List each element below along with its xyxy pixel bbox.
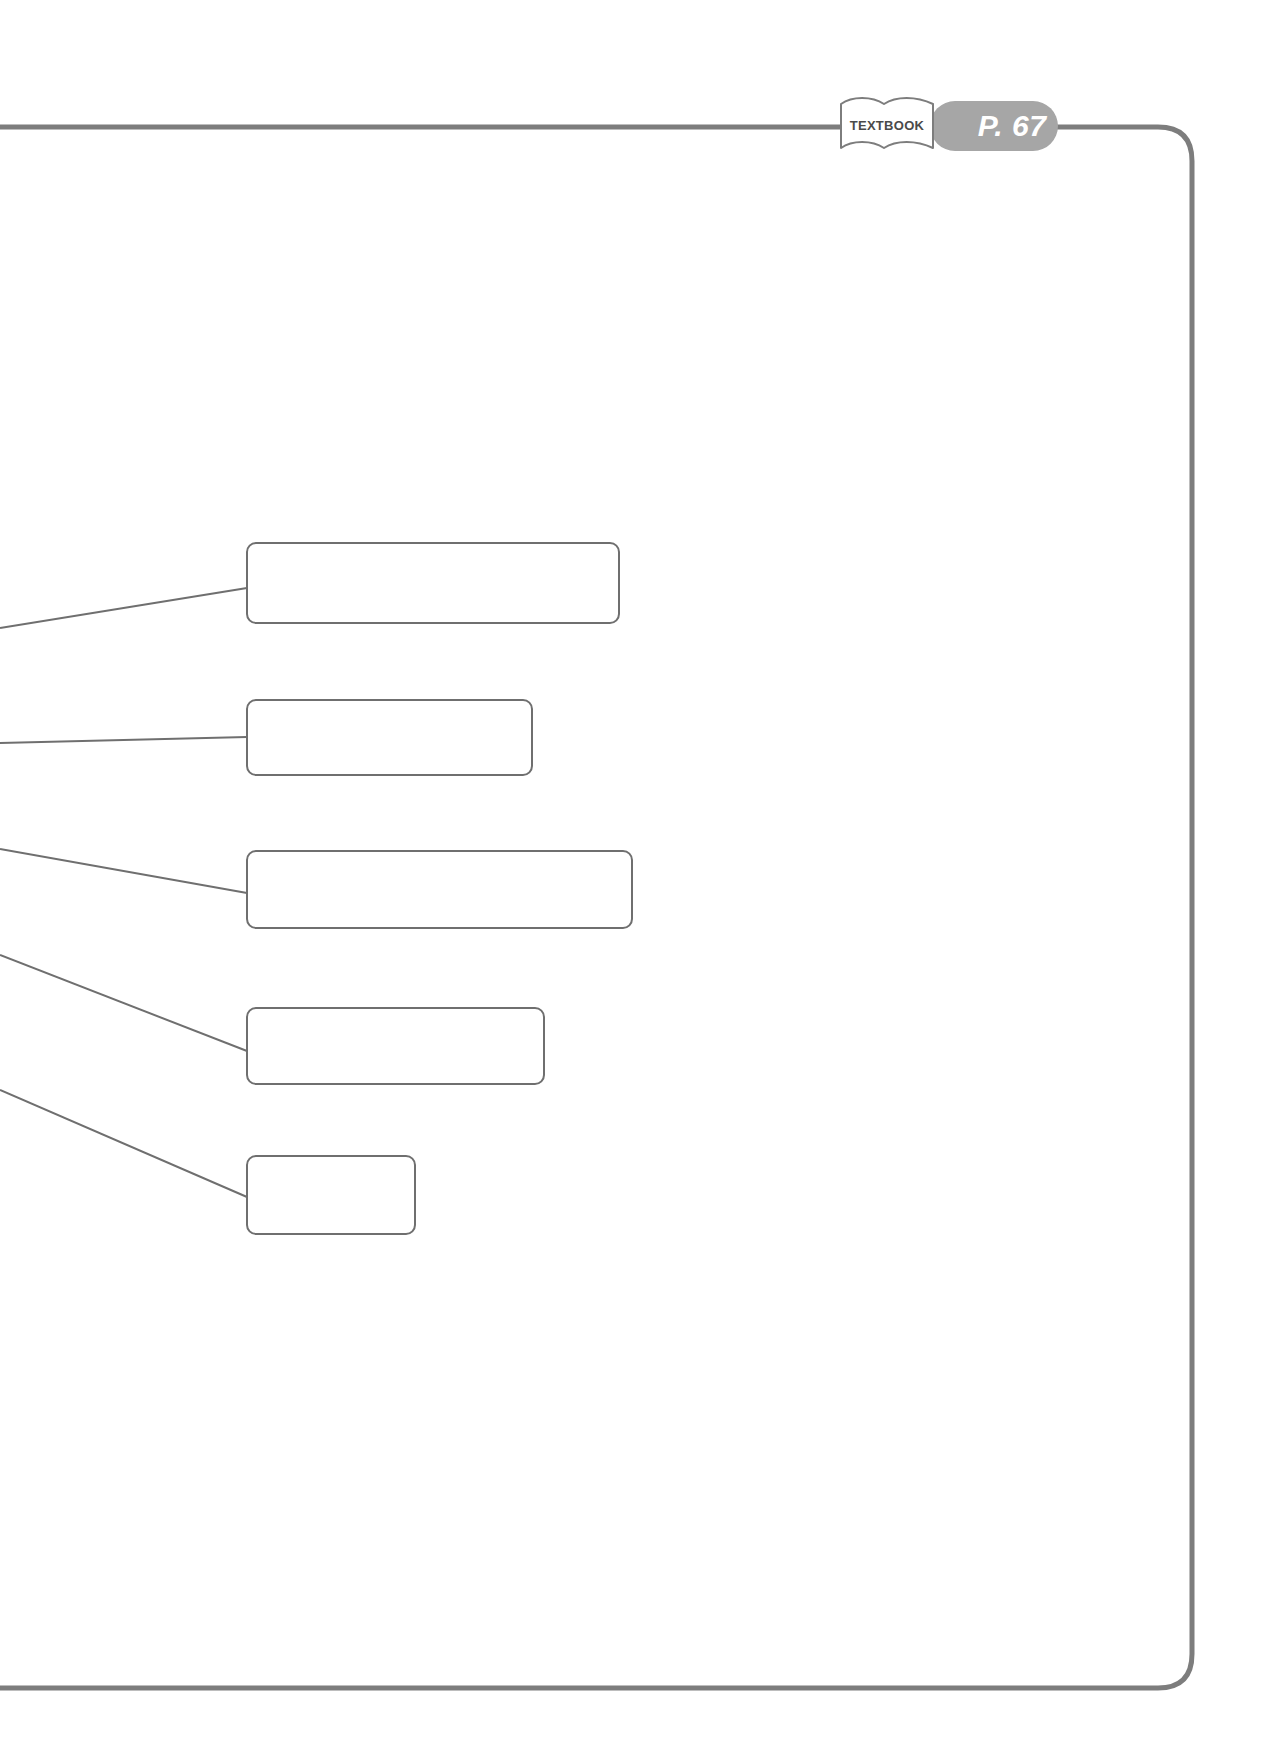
answer-boxes-group [0,0,1277,1746]
answer-box-4-value[interactable] [247,1008,544,1084]
connector-line-4 [0,955,247,1051]
answer-box-3-value[interactable] [247,851,632,928]
connector-line-3 [0,849,247,893]
connector-line-5 [0,1090,247,1197]
connector-line-2 [0,737,247,743]
answer-box-1-value[interactable] [247,543,619,623]
connector-line-1 [0,588,247,628]
worksheet-page: P. 67 TEXTBOOK [0,0,1277,1746]
answer-box-2-value[interactable] [247,700,532,775]
answer-box-5-value[interactable] [247,1156,415,1234]
